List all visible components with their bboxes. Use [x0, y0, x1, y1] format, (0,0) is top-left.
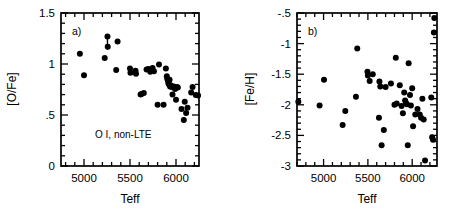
data-point — [115, 39, 121, 45]
panel-b-y-tick-labels: -3-2.5-2-1.5-1-.5 — [271, 7, 291, 172]
y-tick-label: -1 — [281, 38, 291, 50]
data-point — [367, 78, 373, 84]
data-point — [102, 55, 108, 61]
panel-b-data-points — [295, 15, 437, 164]
data-point — [173, 97, 179, 103]
panel-a-annotations: O I, non-LTE — [95, 129, 152, 140]
data-point — [195, 93, 201, 99]
panel-a-y-axis-title: [O/Fe] — [5, 72, 19, 105]
panel-b-frame — [297, 13, 437, 166]
data-point — [406, 60, 412, 66]
y-tick-label: -.5 — [278, 7, 291, 19]
data-point — [155, 102, 161, 108]
data-point — [421, 116, 427, 122]
data-point — [422, 157, 428, 163]
panel-b: 500055006000 -3-2.5-2-1.5-1-.5 b) Teff [… — [243, 7, 437, 206]
panel-b-label: b) — [308, 25, 317, 37]
panel-a-label: a) — [72, 25, 81, 37]
data-point — [181, 117, 187, 123]
data-point — [185, 105, 191, 111]
panel-b-x-axis-title: Teff — [357, 192, 377, 206]
y-tick-label: 1.5 — [39, 7, 55, 19]
data-point — [407, 92, 413, 98]
y-tick-label: .5 — [45, 109, 55, 121]
panel-a: 500055006000 0.511.5 a) O I, non-LTE Tef… — [5, 7, 201, 206]
data-point — [379, 142, 385, 148]
data-point — [419, 96, 425, 102]
data-point — [400, 110, 406, 116]
data-point — [342, 108, 348, 114]
data-point — [183, 110, 189, 116]
data-point — [170, 92, 176, 98]
data-point — [376, 115, 382, 121]
data-point — [190, 84, 196, 90]
y-tick-label: 0 — [49, 160, 55, 172]
data-point — [409, 85, 415, 91]
figure-container: 500055006000 0.511.5 a) O I, non-LTE Tef… — [0, 0, 450, 211]
panel-b-ticks — [297, 13, 437, 166]
data-point — [317, 102, 323, 108]
data-point — [383, 84, 389, 90]
data-point — [430, 137, 436, 143]
y-tick-label: -3 — [281, 160, 291, 172]
data-point — [353, 94, 359, 100]
data-point — [381, 127, 387, 133]
data-point — [415, 106, 421, 112]
data-point — [113, 67, 119, 73]
plot-annotation: O I, non-LTE — [95, 129, 152, 140]
data-point — [175, 84, 181, 90]
data-point — [161, 102, 167, 108]
panel-b-x-tick-labels: 500055006000 — [311, 172, 425, 184]
x-tick-label: 5500 — [117, 172, 143, 184]
panel-a-data-points — [77, 33, 201, 123]
data-point — [431, 30, 437, 36]
data-point — [431, 15, 437, 21]
panel-b-y-axis-title: [Fe/H] — [243, 73, 257, 106]
data-point — [81, 72, 87, 78]
panel-a-x-tick-labels: 500055006000 — [71, 172, 189, 184]
x-tick-label: 6000 — [163, 172, 189, 184]
x-tick-label: 5500 — [355, 172, 381, 184]
panel-a-x-axis-title: Teff — [120, 192, 140, 206]
data-point — [397, 82, 403, 88]
data-point — [393, 55, 399, 61]
data-point — [370, 71, 376, 77]
y-tick-label: -2 — [281, 99, 291, 111]
data-point — [388, 80, 394, 86]
data-point — [405, 142, 411, 148]
data-point — [408, 102, 414, 108]
data-point — [182, 99, 188, 105]
data-point — [340, 122, 346, 128]
y-tick-label: -1.5 — [271, 68, 291, 80]
data-point — [156, 62, 162, 68]
data-point — [410, 123, 416, 129]
scatter-figure: 500055006000 0.511.5 a) O I, non-LTE Tef… — [0, 0, 450, 211]
x-tick-label: 5000 — [71, 172, 97, 184]
data-point — [428, 94, 434, 100]
y-tick-label: -2.5 — [271, 129, 291, 141]
data-point — [151, 68, 157, 74]
data-point — [77, 51, 83, 57]
data-point — [163, 66, 169, 72]
y-tick-label: 1 — [49, 58, 55, 70]
data-point — [401, 90, 407, 96]
data-point — [321, 77, 327, 83]
data-point — [179, 106, 185, 112]
x-tick-label: 6000 — [399, 172, 425, 184]
data-point — [354, 45, 360, 51]
panel-a-y-tick-labels: 0.511.5 — [39, 7, 55, 172]
data-point — [141, 90, 147, 96]
x-tick-label: 5000 — [311, 172, 337, 184]
data-point — [167, 77, 173, 83]
data-point — [133, 71, 139, 77]
data-point — [295, 99, 301, 105]
data-point — [377, 83, 383, 89]
